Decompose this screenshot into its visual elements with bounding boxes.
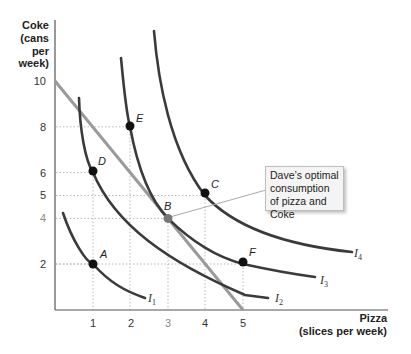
point-label-a: A	[99, 248, 107, 260]
curve-label-i3: I3	[319, 273, 328, 289]
y-tick-6: 6	[40, 167, 46, 179]
y-axis-title: Coke (cans per week)	[17, 19, 49, 69]
point-label-d: D	[98, 155, 106, 167]
svg-text:Pizza: Pizza	[359, 312, 387, 324]
x-tick-2: 2	[128, 317, 134, 329]
curve-label-i2: I2	[274, 291, 283, 307]
callout-connector	[170, 190, 266, 217]
x-tick-1: 1	[90, 317, 96, 329]
svg-text:week): week)	[17, 57, 49, 69]
x-tick-4: 4	[202, 317, 208, 329]
point-a	[89, 260, 98, 269]
point-f	[239, 258, 248, 267]
x-tick-5: 5	[240, 317, 246, 329]
optimal-consumption-callout: Dave’s optimal consumption of pizza and …	[265, 166, 344, 211]
x-tick-3: 3	[165, 317, 171, 329]
indifference-curve-chart: A B C D E F I1 I2 I3 I4 10 8 6 5 4 2 1 2…	[0, 0, 411, 354]
point-label-c: C	[211, 178, 219, 190]
svg-text:(slices per week): (slices per week)	[299, 325, 387, 337]
y-tick-8: 8	[40, 121, 46, 133]
curve-label-i1: I1	[147, 291, 156, 307]
svg-text:Coke: Coke	[22, 19, 49, 31]
point-d	[89, 167, 98, 176]
y-tick-10: 10	[34, 75, 46, 87]
x-axis-title: Pizza (slices per week)	[299, 312, 388, 337]
point-c	[201, 189, 210, 198]
point-b	[164, 214, 173, 223]
y-tick-5: 5	[40, 189, 46, 201]
curve-label-i4: I4	[353, 246, 362, 262]
point-label-b: B	[164, 200, 171, 212]
y-tick-2: 2	[40, 258, 46, 270]
point-e	[126, 122, 135, 131]
point-label-f: F	[249, 246, 257, 258]
curve-i2	[79, 98, 268, 298]
svg-text:(cans: (cans	[20, 32, 49, 44]
svg-text:per: per	[32, 45, 50, 57]
point-label-e: E	[136, 112, 144, 124]
budget-line	[55, 81, 243, 310]
y-tick-4: 4	[40, 212, 46, 224]
curve-i4	[154, 31, 352, 252]
